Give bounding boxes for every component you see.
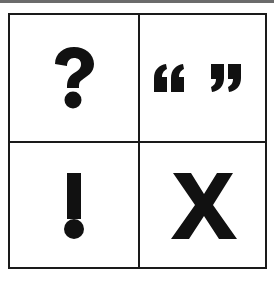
cell-x bbox=[140, 143, 267, 268]
cell-quotes bbox=[140, 15, 267, 140]
symbol-grid bbox=[8, 13, 267, 269]
cell-question bbox=[10, 15, 137, 140]
top-rule bbox=[0, 0, 274, 3]
cell-exclamation bbox=[10, 143, 137, 268]
exclamation-mark-icon bbox=[63, 173, 85, 239]
x-mark-icon bbox=[171, 173, 237, 239]
quotation-marks-icon bbox=[154, 64, 254, 92]
question-mark-icon bbox=[52, 47, 96, 109]
